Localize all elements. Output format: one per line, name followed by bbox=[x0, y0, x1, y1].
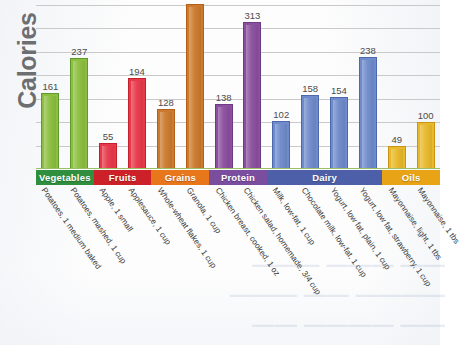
x-tick-label: Whole-wheat flakes, 1 cup bbox=[155, 186, 217, 270]
chart-bar[interactable]: 49 bbox=[388, 146, 406, 169]
bar-value-label: 49 bbox=[391, 134, 402, 145]
food-group-legend-band: VegetablesFruitsGrainsProteinDairyOils bbox=[36, 170, 440, 185]
chart-bar[interactable] bbox=[186, 4, 204, 169]
bar-value-label: 102 bbox=[273, 109, 289, 120]
group-legend-protein[interactable]: Protein bbox=[209, 170, 267, 185]
bar-slot: 237 bbox=[70, 58, 88, 169]
x-tick-label: Potatoes, mashed, 1 cup bbox=[69, 186, 128, 265]
x-axis-tick-labels: Potatoes, 1 medium bakedPotatoes, mashed… bbox=[0, 186, 440, 345]
bar-slot: 100 bbox=[417, 122, 435, 169]
chart-bar[interactable]: 194 bbox=[128, 78, 146, 169]
bar-slot: 49 bbox=[388, 146, 406, 169]
chart-bar[interactable]: 161 bbox=[41, 93, 59, 169]
plot-area: 1612375519412813831310215815423849100 bbox=[36, 0, 440, 169]
bar-slot: 102 bbox=[272, 121, 290, 169]
chart-bar[interactable]: 128 bbox=[157, 109, 175, 169]
bar-value-label: 237 bbox=[71, 46, 87, 57]
x-tick-label: Yogurt, low fat, plain, 1 cup bbox=[329, 186, 393, 271]
chart-bar[interactable]: 237 bbox=[70, 58, 88, 169]
bar-value-label: 154 bbox=[331, 85, 347, 96]
bar-slot: 158 bbox=[301, 95, 319, 169]
bar-value-label: 194 bbox=[129, 66, 145, 77]
bar-value-label: 138 bbox=[216, 92, 232, 103]
bar-value-label: 313 bbox=[244, 10, 260, 21]
bar-value-label: 238 bbox=[360, 45, 376, 56]
bar-slot: 238 bbox=[359, 57, 377, 169]
chart-bar[interactable]: 102 bbox=[272, 121, 290, 169]
bar-slot: 194 bbox=[128, 78, 146, 169]
chart-bar[interactable]: 158 bbox=[301, 95, 319, 169]
bar-slot: 128 bbox=[157, 109, 175, 169]
x-tick-label: Mayonnaise, light, 1 tbs bbox=[386, 186, 443, 262]
bar-slot: 138 bbox=[215, 104, 233, 169]
chart-bar[interactable]: 154 bbox=[330, 97, 348, 169]
bar-slot: 313 bbox=[243, 22, 261, 169]
bar-value-label: 128 bbox=[158, 97, 174, 108]
chart-bar[interactable]: 55 bbox=[99, 143, 117, 169]
bar-value-label: 158 bbox=[302, 83, 318, 94]
chart-bar[interactable]: 238 bbox=[359, 57, 377, 169]
bar-slot: 55 bbox=[99, 143, 117, 169]
group-legend-vegetables[interactable]: Vegetables bbox=[36, 170, 94, 185]
bar-value-label: 100 bbox=[418, 110, 434, 121]
group-legend-oils[interactable]: Oils bbox=[382, 170, 440, 185]
bar-slot: 154 bbox=[330, 97, 348, 169]
bar-slot: 161 bbox=[41, 93, 59, 169]
group-legend-fruits[interactable]: Fruits bbox=[94, 170, 152, 185]
group-legend-dairy[interactable]: Dairy bbox=[267, 170, 382, 185]
group-legend-grains[interactable]: Grains bbox=[151, 170, 209, 185]
bar-value-label: 55 bbox=[103, 131, 114, 142]
chart-bar[interactable]: 313 bbox=[243, 22, 261, 169]
chart-bar[interactable]: 138 bbox=[215, 104, 233, 169]
bar-value-label: 161 bbox=[42, 81, 58, 92]
bars-layer: 1612375519412813831310215815423849100 bbox=[36, 0, 440, 169]
chart-bar[interactable]: 100 bbox=[417, 122, 435, 169]
axis-baseline bbox=[36, 168, 440, 169]
bar-slot bbox=[186, 4, 204, 169]
